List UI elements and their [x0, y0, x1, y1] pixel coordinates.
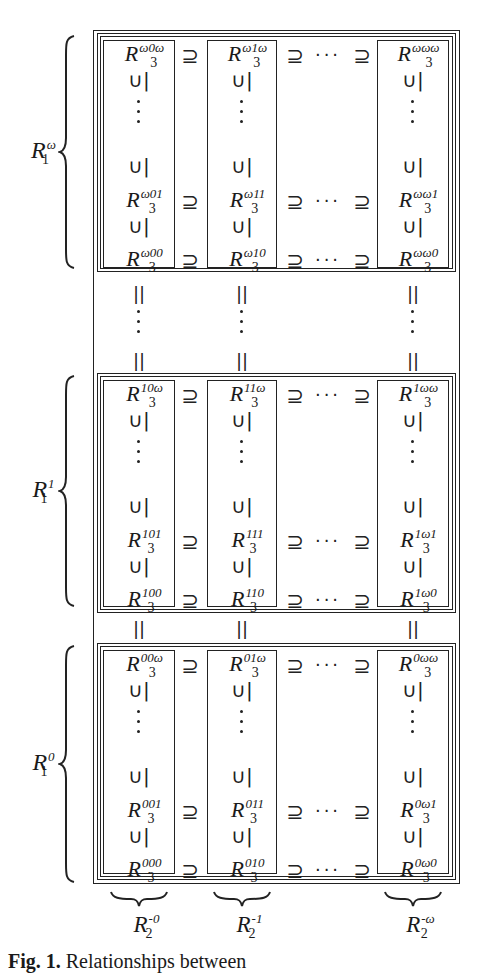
subseteq-rotated-symbol: ∪| [231, 680, 252, 700]
equals-rotated-symbol: || [407, 618, 419, 639]
supseteq-symbol: ⊇ [353, 656, 371, 677]
subseteq-rotated-symbol: ∪| [402, 826, 423, 846]
subseteq-rotated-symbol: ∪| [231, 410, 252, 430]
equals-rotated-symbol: || [133, 350, 145, 371]
vdots-symbol [137, 100, 141, 130]
group-label-R1: Rω1 [31, 138, 49, 162]
supseteq-symbol: ⊇ [181, 532, 199, 553]
vdots-symbol [137, 440, 141, 470]
hdots-symbol: ··· [315, 190, 341, 211]
equals-rotated-symbol: || [236, 618, 248, 639]
supseteq-symbol: ⊇ [286, 656, 304, 677]
cell-R3: R01ω3 [229, 653, 259, 675]
bottom-label-R2: R-12 [237, 913, 256, 936]
supseteq-symbol: ⊇ [181, 386, 199, 407]
supseteq-symbol: ⊇ [181, 46, 199, 67]
cell-R3: R10ω3 [126, 383, 156, 405]
cell-R3: R1103 [231, 588, 257, 610]
cell-R3: R1ω03 [400, 588, 430, 610]
cell-R3: Rω003 [126, 248, 156, 270]
left-brace [58, 375, 78, 607]
cell-R3: Rω013 [126, 189, 156, 211]
supseteq-symbol: ⊇ [353, 46, 371, 67]
subseteq-rotated-symbol: ∪| [231, 156, 252, 176]
supseteq-symbol: ⊇ [286, 386, 304, 407]
vdots-symbol [411, 100, 415, 130]
hdots-symbol: ··· [315, 654, 341, 675]
subseteq-rotated-symbol: ∪| [402, 216, 423, 236]
vdots-symbol [240, 310, 244, 340]
subseteq-rotated-symbol: ∪| [231, 216, 252, 236]
supseteq-symbol: ⊇ [286, 532, 304, 553]
bottom-label-R2: R-02 [134, 913, 153, 936]
supseteq-symbol: ⊇ [181, 591, 199, 612]
vdots-symbol [240, 710, 244, 740]
vdots-symbol [137, 310, 141, 340]
supseteq-symbol: ⊇ [181, 861, 199, 882]
subseteq-rotated-symbol: ∪| [128, 680, 149, 700]
bottom-label-R2: R-ω2 [406, 913, 428, 936]
subseteq-rotated-symbol: ∪| [128, 826, 149, 846]
subseteq-rotated-symbol: ∪| [128, 216, 149, 236]
subseteq-rotated-symbol: ∪| [402, 156, 423, 176]
cell-R3: Rωω03 [399, 248, 431, 270]
hdots-symbol: ··· [315, 859, 341, 880]
cell-R3: R0003 [128, 858, 155, 880]
subseteq-rotated-symbol: ∪| [402, 556, 423, 576]
subseteq-rotated-symbol: ∪| [402, 680, 423, 700]
hdots-symbol: ··· [315, 589, 341, 610]
supseteq-symbol: ⊇ [286, 802, 304, 823]
cell-R3: R00ω3 [126, 653, 156, 675]
supseteq-symbol: ⊇ [353, 532, 371, 553]
supseteq-symbol: ⊇ [181, 656, 199, 677]
cell-R3: Rω0ω3 [125, 43, 157, 65]
equals-rotated-symbol: || [133, 283, 145, 304]
supseteq-symbol: ⊇ [353, 192, 371, 213]
bottom-brace [383, 890, 443, 908]
cell-R3: R0103 [231, 858, 258, 880]
cell-R3: R1ω13 [400, 529, 430, 551]
hdots-symbol: ··· [315, 530, 341, 551]
subseteq-rotated-symbol: ∪| [231, 826, 252, 846]
group-label-R1: R11 [32, 477, 47, 501]
equals-rotated-symbol: || [407, 283, 419, 304]
subseteq-rotated-symbol: ∪| [402, 410, 423, 430]
hdots-symbol: ··· [315, 44, 341, 65]
hdots-symbol: ··· [315, 249, 341, 270]
cell-R3: Rωω13 [399, 189, 431, 211]
cell-R3: R1013 [128, 529, 155, 551]
subseteq-rotated-symbol: ∪| [128, 156, 149, 176]
caption-text: Relationships between [66, 950, 247, 972]
supseteq-symbol: ⊇ [353, 386, 371, 407]
cell-R3: R0ω13 [400, 799, 430, 821]
cell-R3: R0113 [231, 799, 257, 821]
supseteq-symbol: ⊇ [353, 802, 371, 823]
subseteq-rotated-symbol: ∪| [402, 766, 423, 786]
supseteq-symbol: ⊇ [286, 861, 304, 882]
equals-rotated-symbol: || [236, 283, 248, 304]
vdots-symbol [240, 100, 244, 130]
cell-R3: R11ω3 [230, 383, 259, 405]
left-brace [58, 645, 78, 883]
equals-rotated-symbol: || [236, 350, 248, 371]
equals-rotated-symbol: || [133, 618, 145, 639]
supseteq-symbol: ⊇ [286, 591, 304, 612]
vdots-symbol [240, 440, 244, 470]
vdots-symbol [411, 310, 415, 340]
cell-R3: R0013 [128, 799, 155, 821]
supseteq-symbol: ⊇ [353, 861, 371, 882]
bottom-brace [109, 890, 169, 908]
supseteq-symbol: ⊇ [181, 802, 199, 823]
supseteq-symbol: ⊇ [353, 591, 371, 612]
subseteq-rotated-symbol: ∪| [128, 496, 149, 516]
subseteq-rotated-symbol: ∪| [128, 556, 149, 576]
cell-R3: R0ωω3 [399, 653, 431, 675]
supseteq-symbol: ⊇ [181, 192, 199, 213]
subseteq-rotated-symbol: ∪| [231, 556, 252, 576]
subseteq-rotated-symbol: ∪| [231, 496, 252, 516]
supseteq-symbol: ⊇ [353, 251, 371, 272]
supseteq-symbol: ⊇ [286, 46, 304, 67]
cell-R3: Rωωω3 [398, 43, 433, 65]
bottom-brace [212, 890, 272, 908]
cell-R3: R1113 [231, 529, 256, 551]
